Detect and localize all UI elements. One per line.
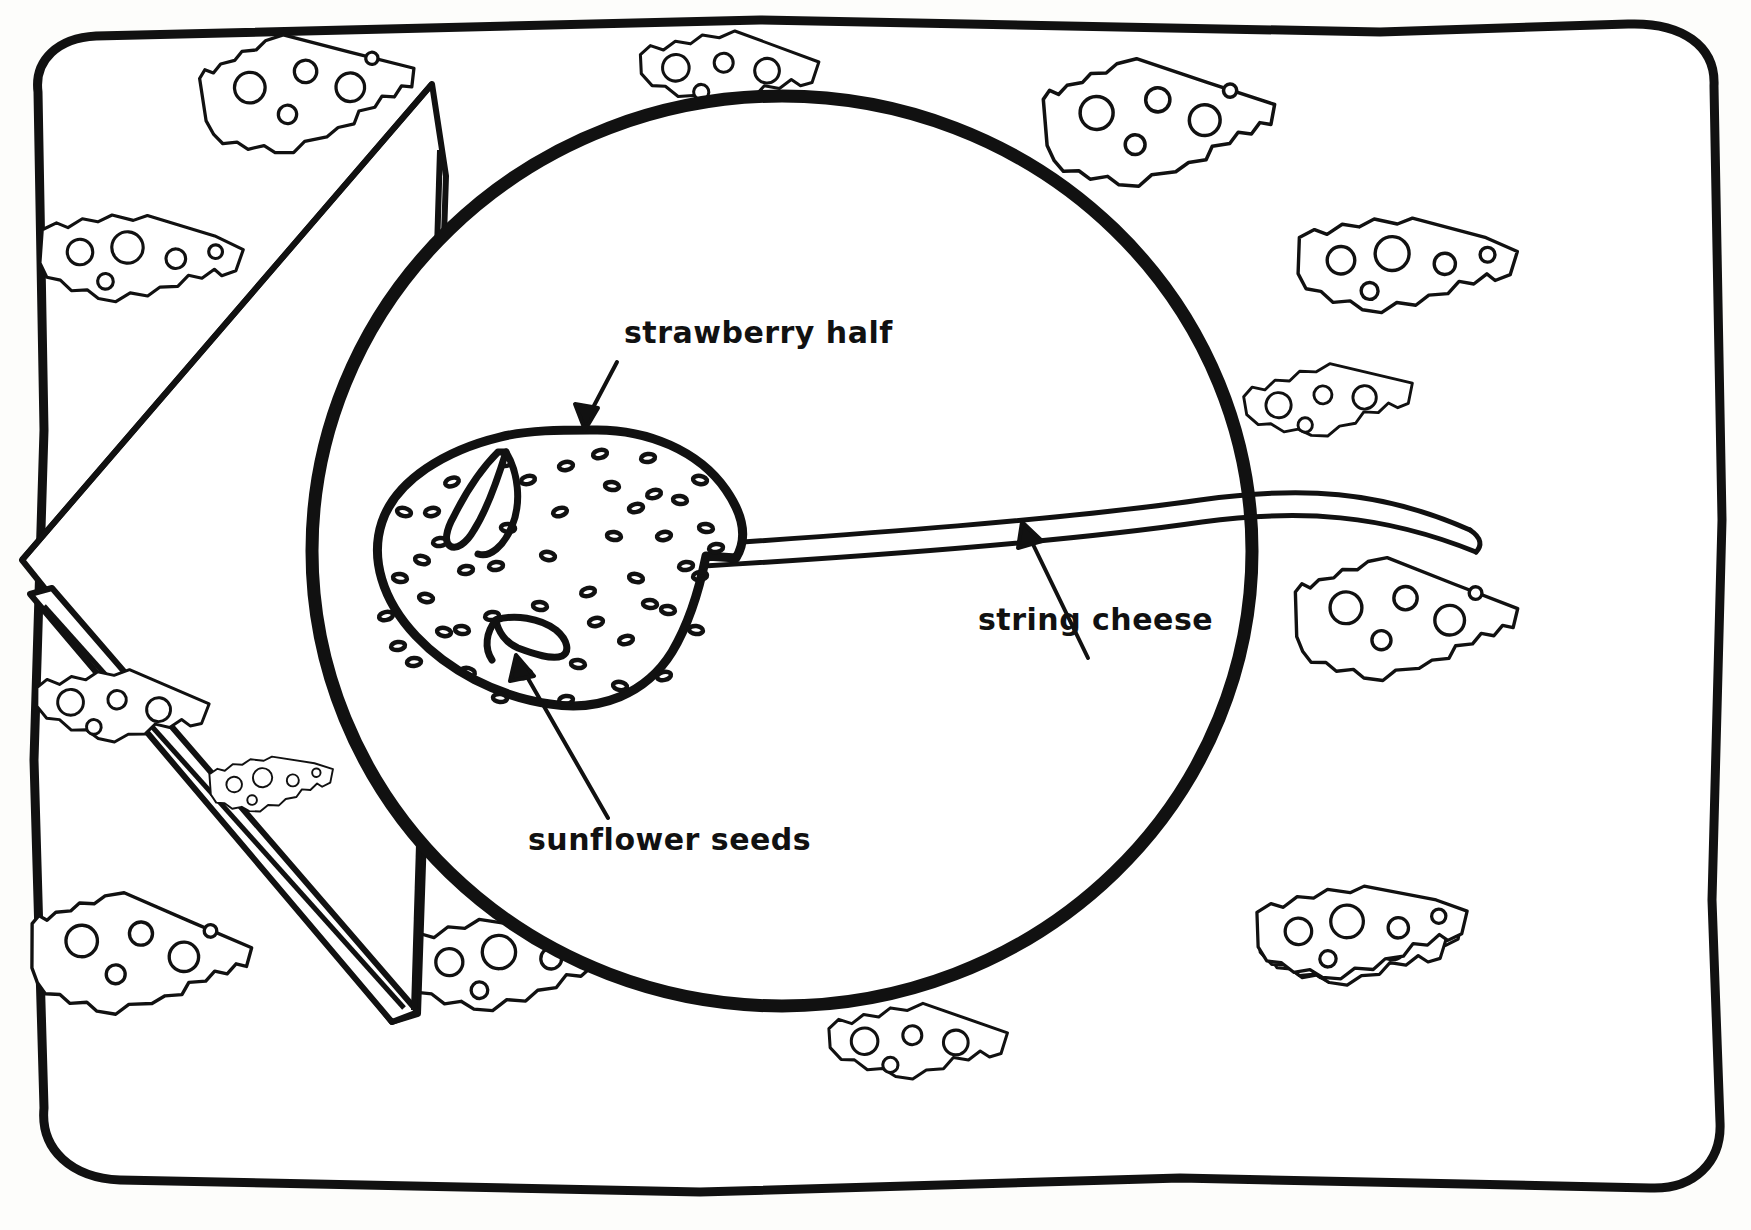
illustration-canvas: strawberry half string cheese sunflower … bbox=[0, 0, 1751, 1230]
line-drawing bbox=[0, 0, 1751, 1230]
label-string-cheese: string cheese bbox=[978, 605, 1213, 635]
label-sunflower-seeds: sunflower seeds bbox=[528, 825, 811, 855]
label-strawberry-half: strawberry half bbox=[624, 318, 893, 348]
